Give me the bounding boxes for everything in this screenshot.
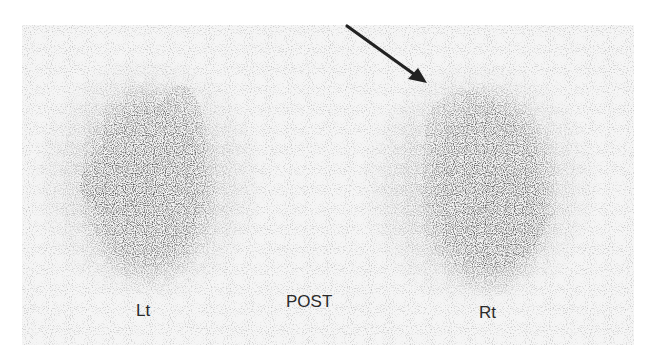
right-kidney <box>358 60 598 310</box>
view-label: POST <box>286 293 332 310</box>
left-kidney <box>30 55 266 305</box>
left-side-label: Lt <box>136 302 150 319</box>
right-side-label: Rt <box>479 304 496 321</box>
